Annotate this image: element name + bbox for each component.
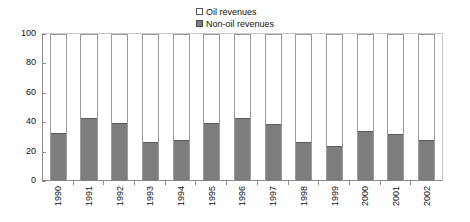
- bar-stack: [357, 34, 374, 181]
- y-axis-tick-label: 40: [0, 117, 36, 126]
- bar-segment-non-oil-revenues: [143, 142, 158, 181]
- x-axis-tick-mark: [196, 181, 227, 185]
- x-axis-tick-label: 1999: [330, 186, 340, 206]
- bar-segment-oil-revenues: [174, 35, 189, 140]
- bar-stack: [80, 34, 97, 181]
- x-axis-label-slot: 1991: [74, 186, 105, 220]
- chart-legend: Oil revenuesNon-oil revenues: [196, 6, 274, 29]
- x-axis-tick-mark: [289, 181, 320, 185]
- bar-group-1998: [289, 34, 320, 181]
- x-axis-label-slot: 1990: [43, 186, 74, 220]
- bar-segment-oil-revenues: [204, 35, 219, 123]
- bar-segment-oil-revenues: [266, 35, 281, 124]
- bar-group-2001: [381, 34, 412, 181]
- legend-item-nonoil: Non-oil revenues: [196, 18, 274, 29]
- x-axis: 1990199119921993199419951996199719981999…: [43, 186, 442, 220]
- bars-layer: [43, 34, 442, 181]
- bar-stack: [265, 34, 282, 181]
- bar-stack: [203, 34, 220, 181]
- bar-stack: [173, 34, 190, 181]
- bar-stack: [418, 34, 435, 181]
- bar-group-1992: [104, 34, 135, 181]
- bar-segment-non-oil-revenues: [81, 118, 96, 181]
- bar-group-1996: [227, 34, 258, 181]
- x-axis-label-slot: 1999: [319, 186, 350, 220]
- x-axis-tick-mark: [258, 181, 289, 185]
- bar-segment-oil-revenues: [51, 35, 66, 133]
- x-axis-tick-mark: [381, 181, 412, 185]
- legend-label: Non-oil revenues: [206, 19, 274, 29]
- bar-segment-non-oil-revenues: [327, 146, 342, 181]
- bar-stack: [295, 34, 312, 181]
- bar-segment-oil-revenues: [419, 35, 434, 140]
- bar-segment-oil-revenues: [358, 35, 373, 131]
- x-axis-tick-label: 1995: [207, 186, 217, 206]
- bar-segment-non-oil-revenues: [388, 134, 403, 181]
- bar-group-1994: [166, 34, 197, 181]
- stacked-bar-chart: Oil revenuesNon-oil revenues 02040608010…: [0, 0, 470, 222]
- y-axis-tick-label: 60: [0, 87, 36, 96]
- x-axis-tick-label: 2000: [360, 186, 370, 206]
- bar-stack: [111, 34, 128, 181]
- legend-item-oil: Oil revenues: [196, 6, 274, 17]
- x-axis-ticks: [43, 181, 442, 185]
- bar-stack: [387, 34, 404, 181]
- x-axis-label-slot: 1994: [166, 186, 197, 220]
- bar-segment-non-oil-revenues: [174, 140, 189, 181]
- y-axis-tick-mark: [42, 181, 46, 182]
- y-axis-tick-mark: [42, 122, 46, 123]
- x-axis-tick-label: 2001: [391, 186, 401, 206]
- bar-segment-non-oil-revenues: [112, 123, 127, 181]
- x-axis-tick-label: 1994: [176, 186, 186, 206]
- y-axis-tick-label: 20: [0, 146, 36, 155]
- bar-segment-oil-revenues: [143, 35, 158, 142]
- y-axis-tick-mark: [42, 34, 46, 35]
- x-axis-tick-label: 2002: [422, 186, 432, 206]
- x-axis-tick-label: 1998: [299, 186, 309, 206]
- bar-group-1993: [135, 34, 166, 181]
- bar-group-1995: [196, 34, 227, 181]
- legend-swatch-nonoil-icon: [196, 20, 203, 27]
- x-axis-label-slot: 1997: [258, 186, 289, 220]
- x-axis-tick-label: 1992: [115, 186, 125, 206]
- bar-segment-oil-revenues: [296, 35, 311, 142]
- x-axis-label-slot: 2001: [381, 186, 412, 220]
- y-axis-tick-label: 80: [0, 58, 36, 67]
- bar-segment-non-oil-revenues: [235, 118, 250, 181]
- x-axis-label-slot: 2000: [350, 186, 381, 220]
- bar-segment-non-oil-revenues: [51, 133, 66, 181]
- y-axis: 020406080100: [0, 33, 36, 181]
- x-axis-tick-mark: [166, 181, 197, 185]
- x-axis-label-slot: 1998: [289, 186, 320, 220]
- bar-stack: [326, 34, 343, 181]
- x-axis-label-slot: 1996: [227, 186, 258, 220]
- bar-group-1991: [74, 34, 105, 181]
- bar-segment-oil-revenues: [388, 35, 403, 134]
- x-axis-tick-label: 1993: [145, 186, 155, 206]
- bar-segment-non-oil-revenues: [204, 123, 219, 181]
- x-axis-label-slot: 2002: [411, 186, 442, 220]
- bar-group-1990: [43, 34, 74, 181]
- bar-segment-non-oil-revenues: [266, 124, 281, 181]
- bar-segment-oil-revenues: [235, 35, 250, 118]
- x-axis-tick-label: 1997: [268, 186, 278, 206]
- bar-segment-non-oil-revenues: [419, 140, 434, 181]
- bar-group-2002: [411, 34, 442, 181]
- bar-segment-non-oil-revenues: [296, 142, 311, 181]
- x-axis-label-slot: 1992: [104, 186, 135, 220]
- y-axis-tick-mark: [42, 152, 46, 153]
- x-axis-tick-mark: [104, 181, 135, 185]
- x-axis-tick-label: 1991: [84, 186, 94, 206]
- x-axis-tick-label: 1996: [237, 186, 247, 206]
- x-axis-tick-mark: [43, 181, 74, 185]
- legend-swatch-oil-icon: [196, 8, 203, 15]
- bar-group-1997: [258, 34, 289, 181]
- bar-segment-oil-revenues: [327, 35, 342, 146]
- legend-label: Oil revenues: [206, 7, 257, 17]
- bar-group-2000: [350, 34, 381, 181]
- y-axis-tick-mark: [42, 63, 46, 64]
- x-axis-label-slot: 1995: [196, 186, 227, 220]
- y-axis-tick-mark: [42, 93, 46, 94]
- bar-stack: [142, 34, 159, 181]
- y-axis-tick-label: 0: [0, 176, 36, 185]
